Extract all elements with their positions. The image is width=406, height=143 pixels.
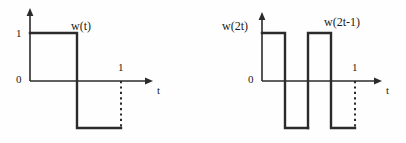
right-t-axis-arrowhead	[374, 78, 382, 85]
left-y-tick-zero: 0	[16, 74, 22, 85]
right-y-tick-zero: 0	[248, 74, 254, 85]
left-y-tick-one: 1	[16, 28, 22, 39]
right-panel-group	[259, 12, 382, 128]
right-x-tick-one: 1	[352, 62, 358, 73]
left-y-axis-arrowhead	[27, 8, 34, 16]
left-function-label-wt: w(t)	[71, 20, 91, 32]
left-x-tick-one: 1	[118, 62, 124, 73]
right-function-label-w2t: w(2t)	[222, 20, 248, 32]
left-t-axis-arrowhead	[145, 78, 153, 85]
right-y-axis-arrowhead	[259, 12, 266, 20]
right-t-axis-label: t	[386, 85, 389, 96]
right-function-label-w2t-minus-1: w(2t-1)	[324, 16, 360, 28]
figure-canvas: 1 0 1 t w(t) 0 1 t w(2t) w(2t-1)	[0, 0, 406, 143]
left-t-axis-label: t	[157, 85, 160, 96]
